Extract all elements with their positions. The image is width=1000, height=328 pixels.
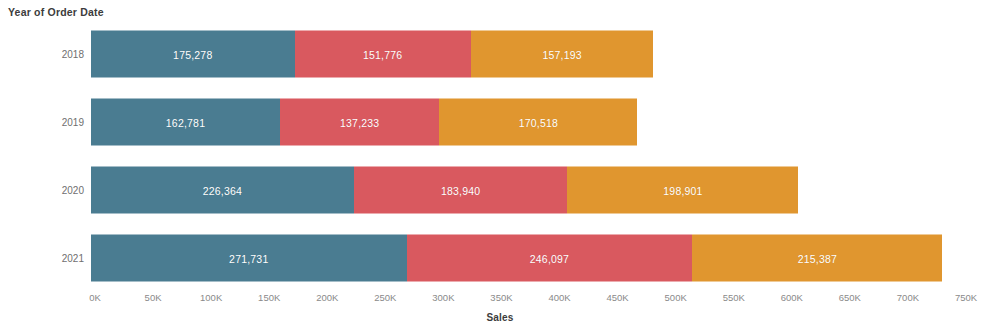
stacked-bar-chart: Year of Order Date 2018175,278151,776157… [0, 0, 1000, 328]
x-axis-title: Sales [0, 312, 1000, 323]
bar-segment-label: 198,901 [663, 184, 702, 196]
bar-segment-series_3-2021[interactable]: 215,387 [692, 235, 942, 282]
stacked-bar: 271,731246,097215,387 [91, 235, 942, 282]
bar-segment-series_3-2018[interactable]: 157,193 [471, 31, 654, 78]
bar-segment-label: 183,940 [441, 184, 480, 196]
bar-row: 2019162,781137,233170,518 [0, 88, 1000, 156]
x-axis-tick-600K: 600K [781, 292, 803, 303]
bar-segment-series_2-2018[interactable]: 151,776 [295, 31, 471, 78]
bar-segment-series_1-2019[interactable]: 162,781 [91, 99, 280, 146]
x-axis-tick-550K: 550K [723, 292, 745, 303]
x-axis-tick-350K: 350K [490, 292, 512, 303]
x-axis-tick-450K: 450K [607, 292, 629, 303]
row-label-2018[interactable]: 2018 [40, 49, 84, 60]
x-axis-tick-650K: 650K [839, 292, 861, 303]
bar-segment-series_2-2020[interactable]: 183,940 [354, 167, 568, 214]
bar-segment-label: 157,193 [542, 48, 581, 60]
x-axis: 0K50K100K150K200K250K300K350K400K450K500… [0, 292, 1000, 310]
x-axis-tick-150K: 150K [258, 292, 280, 303]
x-axis-tick-750K: 750K [955, 292, 977, 303]
x-axis-tick-0K: 0K [89, 292, 101, 303]
bar-segment-label: 162,781 [166, 116, 205, 128]
x-axis-tick-250K: 250K [374, 292, 396, 303]
bar-row: 2020226,364183,940198,901 [0, 156, 1000, 224]
x-axis-tick-500K: 500K [665, 292, 687, 303]
stacked-bar: 175,278151,776157,193 [91, 31, 653, 78]
bar-segment-label: 246,097 [530, 252, 569, 264]
bar-rows: 2018175,278151,776157,1932019162,781137,… [0, 20, 1000, 292]
bar-row: 2018175,278151,776157,193 [0, 20, 1000, 88]
bar-segment-series_2-2019[interactable]: 137,233 [280, 99, 439, 146]
bar-segment-series_1-2020[interactable]: 226,364 [91, 167, 354, 214]
bar-segment-label: 151,776 [363, 48, 402, 60]
row-label-2021[interactable]: 2021 [40, 253, 84, 264]
row-label-2020[interactable]: 2020 [40, 185, 84, 196]
bar-segment-series_2-2021[interactable]: 246,097 [407, 235, 693, 282]
stacked-bar: 162,781137,233170,518 [91, 99, 637, 146]
bar-segment-label: 226,364 [203, 184, 242, 196]
bar-segment-label: 170,518 [519, 116, 558, 128]
bar-segment-label: 137,233 [340, 116, 379, 128]
x-axis-tick-400K: 400K [548, 292, 570, 303]
bar-segment-label: 215,387 [798, 252, 837, 264]
bar-segment-series_1-2018[interactable]: 175,278 [91, 31, 295, 78]
row-label-2019[interactable]: 2019 [40, 117, 84, 128]
bar-segment-series_1-2021[interactable]: 271,731 [91, 235, 407, 282]
x-axis-tick-100K: 100K [200, 292, 222, 303]
bar-segment-label: 271,731 [229, 252, 268, 264]
row-field-title: Year of Order Date [8, 6, 104, 18]
x-axis-tick-700K: 700K [897, 292, 919, 303]
x-axis-tick-50K: 50K [145, 292, 162, 303]
bar-segment-series_3-2019[interactable]: 170,518 [439, 99, 637, 146]
stacked-bar: 226,364183,940198,901 [91, 167, 798, 214]
bar-segment-label: 175,278 [173, 48, 212, 60]
bar-segment-series_3-2020[interactable]: 198,901 [567, 167, 798, 214]
plot-panel: 2018175,278151,776157,1932019162,781137,… [0, 20, 1000, 292]
x-axis-tick-300K: 300K [432, 292, 454, 303]
x-axis-tick-200K: 200K [316, 292, 338, 303]
bar-row: 2021271,731246,097215,387 [0, 224, 1000, 292]
